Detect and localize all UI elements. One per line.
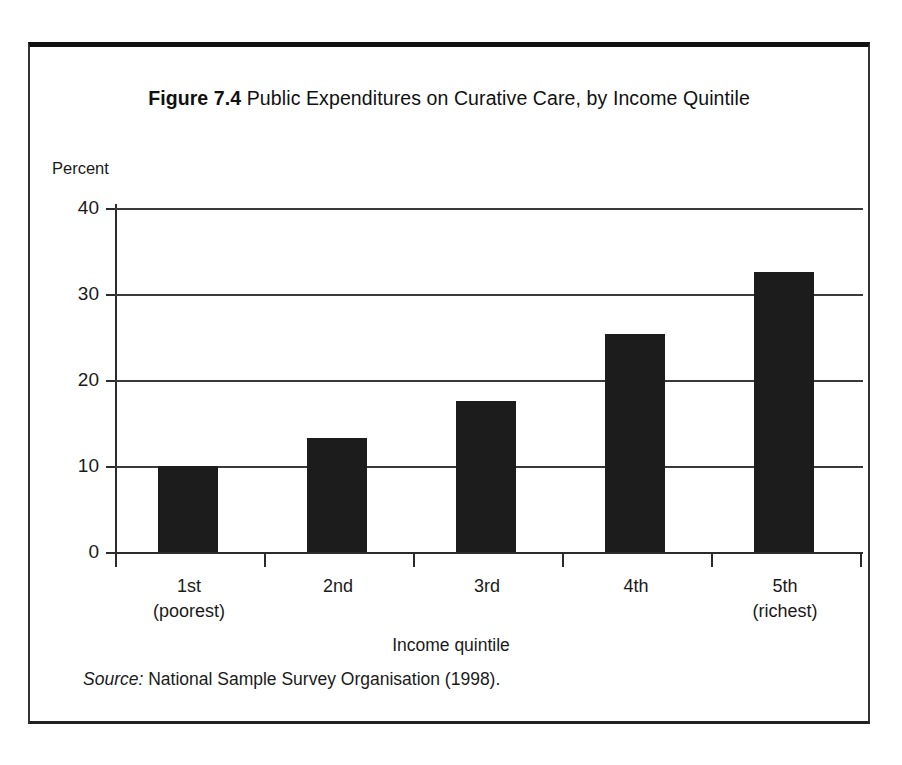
x-label-3rd-main: 3rd — [474, 576, 500, 596]
source-note: Source: National Sample Survey Organisat… — [83, 669, 500, 690]
x-label-1st: 1st (poorest) — [153, 574, 225, 624]
x-label-1st-main: 1st — [177, 576, 201, 596]
y-tick-mark-30 — [106, 294, 115, 296]
x-label-5th-main: 5th — [772, 576, 797, 596]
x-axis-title: Income quintile — [30, 635, 872, 656]
y-tick-label-20: 20 — [78, 369, 99, 391]
plot-area: 40 30 20 10 0 — [115, 208, 863, 552]
x-label-4th: 4th — [623, 574, 648, 599]
x-tick-0 — [115, 554, 117, 567]
x-label-2nd-main: 2nd — [323, 576, 353, 596]
y-tick-mark-10 — [106, 466, 115, 468]
x-label-1st-sub: (poorest) — [153, 599, 225, 624]
bar-5th — [754, 272, 814, 552]
y-tick-mark-40 — [106, 208, 115, 210]
y-tick-mark-0 — [106, 552, 115, 554]
x-label-5th: 5th (richest) — [752, 574, 817, 624]
figure-title: Figure 7.4 Public Expenditures on Curati… — [30, 87, 868, 110]
y-tick-label-40: 40 — [78, 197, 99, 219]
source-text: National Sample Survey Organisation (199… — [143, 669, 500, 689]
figure-title-text: Public Expenditures on Curative Care, by… — [241, 87, 750, 109]
figure-frame: Figure 7.4 Public Expenditures on Curati… — [28, 42, 870, 724]
bar-3rd — [456, 401, 516, 552]
x-tick-5 — [860, 554, 862, 567]
source-label: Source: — [83, 669, 143, 689]
x-label-3rd: 3rd — [474, 574, 500, 599]
x-label-4th-main: 4th — [623, 576, 648, 596]
bar-1st — [158, 466, 218, 552]
figure-number: Figure 7.4 — [148, 87, 241, 109]
x-tick-4 — [711, 554, 713, 567]
x-tick-1 — [264, 554, 266, 567]
y-tick-label-10: 10 — [78, 455, 99, 477]
gridline-40 — [115, 208, 863, 210]
x-label-5th-sub: (richest) — [752, 599, 817, 624]
bar-2nd — [307, 438, 367, 552]
y-tick-label-0: 0 — [88, 541, 99, 563]
x-tick-3 — [562, 554, 564, 567]
y-axis-title: Percent — [52, 159, 109, 178]
gridline-30 — [115, 294, 863, 296]
y-tick-mark-20 — [106, 380, 115, 382]
gridline-20 — [115, 380, 863, 382]
x-tick-2 — [413, 554, 415, 567]
x-label-2nd: 2nd — [323, 574, 353, 599]
y-tick-label-30: 30 — [78, 283, 99, 305]
bar-4th — [605, 334, 665, 552]
